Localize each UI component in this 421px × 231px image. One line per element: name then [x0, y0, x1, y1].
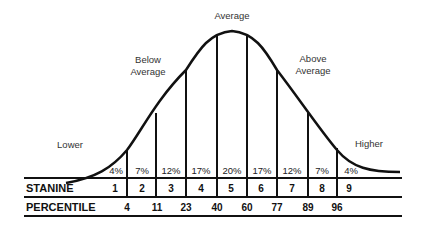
label-above-average-1: Above: [300, 53, 327, 64]
svg-text:77: 77: [271, 202, 283, 213]
label-higher: Higher: [355, 138, 383, 149]
svg-text:20%: 20%: [222, 165, 242, 176]
label-below-average-2: Average: [130, 66, 165, 77]
label-average: Average: [214, 10, 249, 21]
percentile-values: 4 11 23 40 60 77 89 96: [124, 202, 343, 213]
svg-text:1: 1: [112, 183, 118, 194]
label-below-average-1: Below: [135, 54, 161, 65]
percentile-row-label: PERCENTILE: [26, 201, 96, 213]
stanine-chart: Average Below Average Above Average Lowe…: [0, 0, 421, 231]
svg-text:89: 89: [302, 202, 314, 213]
label-above-average-2: Average: [295, 65, 330, 76]
percent-labels: 4% 7% 12% 17% 20% 17% 12% 7% 4%: [109, 165, 358, 176]
svg-text:8: 8: [319, 183, 325, 194]
svg-text:17%: 17%: [252, 165, 272, 176]
svg-text:4%: 4%: [344, 165, 358, 176]
svg-text:40: 40: [211, 202, 223, 213]
svg-text:7%: 7%: [135, 165, 149, 176]
svg-text:96: 96: [331, 202, 343, 213]
svg-text:4: 4: [124, 202, 130, 213]
svg-text:17%: 17%: [191, 165, 211, 176]
svg-text:3: 3: [168, 183, 174, 194]
svg-text:4%: 4%: [109, 165, 123, 176]
stanine-values: 1 2 3 4 5 6 7 8 9: [112, 183, 352, 194]
svg-text:2: 2: [139, 183, 145, 194]
bell-curve: [66, 31, 400, 183]
svg-text:60: 60: [241, 202, 253, 213]
svg-text:11: 11: [152, 202, 163, 213]
svg-text:23: 23: [180, 202, 192, 213]
svg-text:6: 6: [258, 183, 264, 194]
stanine-row-label: STANINE: [26, 182, 73, 194]
svg-text:7: 7: [289, 183, 295, 194]
svg-text:9: 9: [346, 183, 352, 194]
svg-text:7%: 7%: [315, 165, 329, 176]
svg-text:12%: 12%: [161, 165, 181, 176]
svg-text:12%: 12%: [282, 165, 302, 176]
label-lower: Lower: [57, 139, 83, 150]
svg-text:5: 5: [228, 183, 234, 194]
svg-text:4: 4: [198, 183, 204, 194]
